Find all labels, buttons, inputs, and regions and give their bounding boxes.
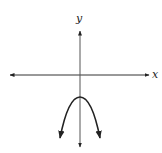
x-axis-label: x xyxy=(152,69,158,80)
parabola-graph: y x xyxy=(0,0,162,153)
y-axis-label: y xyxy=(76,13,82,24)
